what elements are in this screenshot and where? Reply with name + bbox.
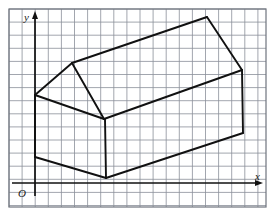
front-wall-vertical — [105, 119, 106, 178]
y-axis-label: y — [23, 11, 29, 23]
figure-container: y x O — [0, 0, 274, 215]
right-wall-vertical — [242, 70, 243, 133]
x-axis-label: x — [254, 170, 260, 182]
house-prism-diagram: y x O — [0, 0, 274, 215]
origin-label: O — [18, 187, 26, 199]
